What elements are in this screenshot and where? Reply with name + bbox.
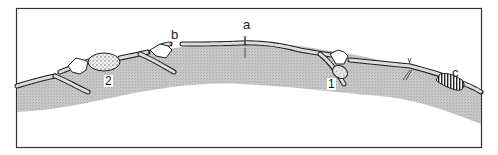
label-b: b [171, 28, 178, 41]
label-a: a [243, 18, 250, 31]
dotted-body-2 [88, 53, 120, 71]
label-1: 1 [327, 78, 336, 90]
diagram: b a c 2 1 [0, 0, 498, 155]
label-c: c [452, 66, 459, 79]
label-2: 2 [104, 75, 113, 87]
